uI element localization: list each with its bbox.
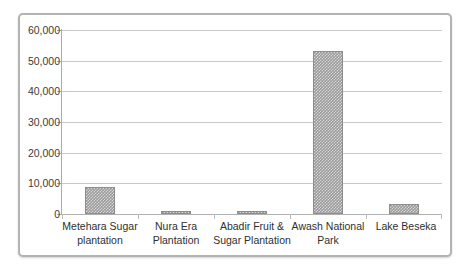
x-label-line-1: Metehara Sugar xyxy=(56,220,144,234)
y-axis-label-60000: 60,000 xyxy=(0,25,60,36)
bar-lake-beseka[interactable] xyxy=(389,204,419,214)
bar-metehara-sugar-plantation[interactable] xyxy=(85,187,115,214)
gridline-10000 xyxy=(62,183,442,184)
x-tick-0 xyxy=(62,214,63,219)
bar-nura-era-plantation[interactable] xyxy=(161,211,191,214)
x-tick-2 xyxy=(214,214,215,219)
y-axis-label-40000: 40,000 xyxy=(0,86,60,97)
x-label-line-1: Lake Beseka xyxy=(365,220,447,234)
gridline-30000 xyxy=(62,122,442,123)
x-axis-label-nura-era-plantation: Nura Era Plantation xyxy=(134,220,218,247)
y-axis-label-30000: 30,000 xyxy=(0,117,60,128)
y-axis-label-50000: 50,000 xyxy=(0,56,60,67)
x-tick-1 xyxy=(138,214,139,219)
x-axis-label-metehara-sugar-plantation: Metehara Sugar plantation xyxy=(56,220,144,247)
x-tick-4 xyxy=(366,214,367,219)
x-axis-label-awash-national-park: Awash National Park xyxy=(284,220,372,247)
x-axis-labels: Metehara Sugar plantation Nura Era Plant… xyxy=(62,220,442,260)
gridline-20000 xyxy=(62,153,442,154)
chart-frame: 60,000 50,000 40,000 30,000 20,000 10,00… xyxy=(18,13,452,257)
x-label-line-1: Nura Era xyxy=(134,220,218,234)
x-label-line-2: plantation xyxy=(56,234,144,248)
gridline-0 xyxy=(62,214,442,215)
x-label-line-2: Plantation xyxy=(134,234,218,248)
x-axis-label-lake-beseka: Lake Beseka xyxy=(365,220,447,234)
x-tick-5 xyxy=(441,214,442,219)
gridline-50000 xyxy=(62,61,442,62)
plot-area: 60,000 50,000 40,000 30,000 20,000 10,00… xyxy=(62,30,442,214)
bar-awash-national-park[interactable] xyxy=(313,51,343,215)
y-axis-label-0: 0 xyxy=(0,209,60,220)
x-label-line-2: Park xyxy=(284,234,372,248)
x-label-line-1: Awash National xyxy=(284,220,372,234)
gridline-40000 xyxy=(62,91,442,92)
x-tick-3 xyxy=(290,214,291,219)
gridline-60000 xyxy=(62,30,442,31)
y-axis-label-10000: 10,000 xyxy=(0,178,60,189)
y-axis-label-20000: 20,000 xyxy=(0,148,60,159)
bar-abadir-fruit-sugar-plantation[interactable] xyxy=(237,211,267,214)
